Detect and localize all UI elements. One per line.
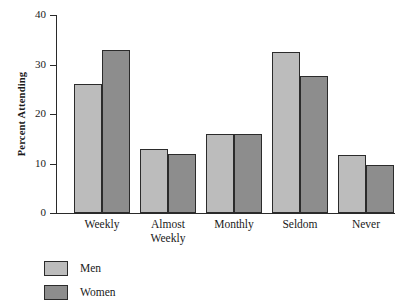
legend-item-men: Men <box>44 258 115 278</box>
bar-almost-weekly-women <box>168 154 196 213</box>
bar-never-women <box>366 165 394 214</box>
y-tick-label-30: 30 <box>6 59 46 70</box>
bar-seldom-women <box>300 76 328 213</box>
y-tick-label-0: 0 <box>6 207 46 218</box>
bar-monthly-men <box>206 134 234 213</box>
bar-almost-weekly-men <box>140 149 168 213</box>
legend-label-men: Men <box>80 262 101 274</box>
men-swatch-icon <box>44 261 68 276</box>
x-label-line: Never <box>326 218 406 232</box>
legend-label-women: Women <box>80 286 115 298</box>
bar-weekly-men <box>74 84 102 213</box>
x-label-never: Never <box>326 218 406 232</box>
bar-chart-figure: Percent Attending 010203040 WeeklyAlmost… <box>0 0 410 308</box>
y-tick-label-20: 20 <box>6 108 46 119</box>
y-tick-label-40: 40 <box>6 9 46 20</box>
chart-legend: Men Women <box>44 258 115 306</box>
bar-monthly-women <box>234 134 262 213</box>
y-tick-0 <box>50 213 57 214</box>
bar-weekly-women <box>102 50 130 213</box>
bar-seldom-men <box>272 52 300 213</box>
plot-area <box>56 15 394 213</box>
women-swatch-icon <box>44 285 68 300</box>
bar-never-men <box>338 155 366 213</box>
y-tick-label-10: 10 <box>6 158 46 169</box>
x-label-line: Weekly <box>128 232 208 246</box>
legend-item-women: Women <box>44 282 115 302</box>
x-axis-line <box>56 213 395 214</box>
